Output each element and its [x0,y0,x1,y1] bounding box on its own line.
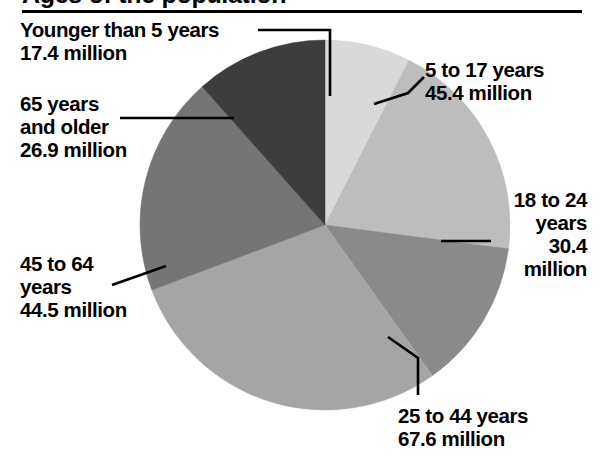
slice-label-younger-than-5: Younger than 5 years 17.4 million [20,18,219,64]
slice-label-18-to-24: 18 to 24 years 30.4 million [455,188,587,281]
slice-label-5-to-17: 5 to 17 years 45.4 million [425,58,544,104]
slice-label-45-to-64: 45 to 64 years 44.5 million [20,252,127,321]
slice-label-25-to-44: 25 to 44 years 67.6 million [398,404,528,450]
slice-label-65-and-older: 65 years and older 26.9 million [20,92,127,161]
chart-page: Ages of the population Younger than 5 ye… [0,0,604,458]
